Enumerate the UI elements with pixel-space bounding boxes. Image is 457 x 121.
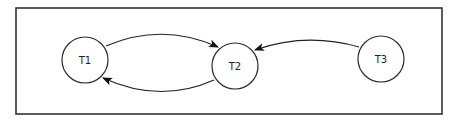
node-t3: T3 [358, 36, 404, 82]
node-t3-label: T3 [374, 54, 387, 65]
node-t1-label: T1 [78, 55, 91, 66]
node-t2-label: T2 [228, 61, 241, 72]
node-t2: T2 [212, 43, 258, 89]
node-t1: T1 [62, 37, 108, 83]
transaction-graph-diagram: T1 T2 T3 [0, 0, 457, 121]
